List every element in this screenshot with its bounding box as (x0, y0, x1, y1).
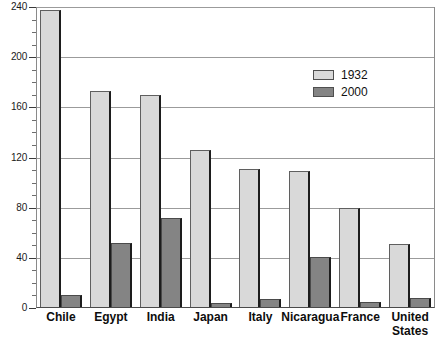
bar-egypt-2000 (111, 243, 132, 308)
plot-area (36, 7, 435, 308)
gridline (36, 7, 435, 8)
legend: 19322000 (313, 68, 397, 102)
x-axis-label-line: States (380, 324, 440, 338)
bar-italy-2000 (260, 299, 281, 308)
y-tick-label: 160 (11, 102, 27, 112)
bar-france-2000 (360, 302, 381, 308)
y-tick-label: 120 (11, 153, 27, 163)
y-tick-label: 40 (16, 253, 27, 263)
bar-chile-2000 (61, 295, 82, 308)
x-axis-label-united-states: UnitedStates (380, 310, 440, 338)
y-tick-major (29, 107, 36, 108)
legend-label-2000: 2000 (341, 86, 368, 98)
bar-italy-1932 (239, 169, 260, 308)
bar-nicaragua-1932 (289, 171, 310, 308)
legend-item-2000: 2000 (313, 85, 397, 98)
bar-france-1932 (339, 208, 360, 308)
legend-swatch-2000 (313, 87, 334, 97)
gridline (36, 57, 435, 58)
legend-swatch-1932 (313, 70, 334, 80)
bar-nicaragua-2000 (310, 257, 331, 308)
y-tick-major (29, 158, 36, 159)
bar-chile-1932 (40, 10, 61, 308)
y-tick-major (29, 57, 36, 58)
y-tick-major (29, 7, 36, 8)
bar-japan-1932 (190, 150, 211, 308)
y-axis: 04080120160200240 (0, 0, 36, 341)
y-tick-label: 80 (16, 203, 27, 213)
bar-india-2000 (161, 218, 182, 308)
bar-chart: 04080120160200240 ChileEgyptIndiaJapanIt… (0, 0, 448, 341)
legend-item-1932: 1932 (313, 68, 397, 81)
bar-japan-2000 (211, 303, 232, 308)
bar-india-1932 (140, 95, 161, 308)
bar-united-states-2000 (410, 298, 431, 308)
y-tick-label: 200 (11, 52, 27, 62)
legend-label-1932: 1932 (341, 69, 368, 81)
x-axis-label-line: United (380, 310, 440, 324)
bar-egypt-1932 (90, 91, 111, 308)
y-tick-label: 240 (11, 2, 27, 12)
y-tick-major (29, 258, 36, 259)
x-axis-labels: ChileEgyptIndiaJapanItalyNicaraguaFrance… (36, 310, 435, 341)
y-tick-major (29, 208, 36, 209)
y-tick-label: 0 (22, 303, 27, 313)
y-tick-major (29, 308, 36, 309)
bar-united-states-1932 (389, 244, 410, 308)
